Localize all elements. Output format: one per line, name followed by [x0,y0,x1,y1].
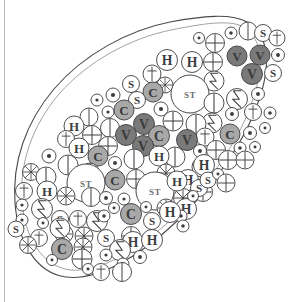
circled-dot-icon [134,251,147,264]
page-edge-rule [4,0,5,302]
letter-s-icon: S [123,76,140,93]
small-circled-dot-icon [188,191,199,202]
letter-v-filled-icon: V [250,45,270,65]
spoke-wheel-icon [57,187,75,205]
circled-dot-icon [109,157,122,170]
letter-v-filled-icon: V [242,64,263,85]
small-circled-dot-icon [38,218,49,229]
small-circled-dot-icon [118,193,130,205]
small-circled-dot-icon [102,106,114,118]
circled-vertical-line-icon [204,93,224,113]
svg-text:ST: ST [80,179,92,189]
circled-dot-icon [106,88,120,102]
lightning-bolt-icon [32,199,53,220]
circled-plus-icon [219,151,238,170]
dagger-cross-icon [93,264,110,281]
circled-dot-icon [252,88,265,101]
cell-layer: SVVHHVSSCSTSCVHVCCHVVCHHSTCHHSTHSSHSCSHC… [8,22,285,282]
small-circled-dot-icon [16,199,28,211]
spoke-wheel-icon [20,237,37,254]
letter-h-icon: H [157,50,178,71]
circled-plus-icon [217,174,235,192]
circled-plus-icon [206,34,225,53]
small-circled-dot-icon [109,203,120,214]
small-circled-dot-icon [100,249,112,261]
lightning-bolt-icon [227,89,248,110]
letter-h-icon: H [149,146,169,166]
small-circled-dot-icon [141,202,152,213]
circled-dot-icon [100,192,113,205]
small-circled-dot-icon [260,123,271,134]
circled-plus-icon [204,53,223,72]
circled-dot-icon [264,107,276,119]
circled-dot-icon [225,27,237,39]
letter-c-filled-icon: C [105,170,125,190]
letter-v-filled-icon: V [227,46,247,66]
small-circled-dot-icon [250,142,261,153]
dagger-cross-icon [245,104,262,121]
circled-dot-icon [42,149,56,163]
letter-c-filled-icon: C [143,82,163,102]
small-circled-dot-icon [47,255,58,266]
circled-plus-icon [236,151,254,169]
letter-h-icon: H [182,52,203,73]
letter-h-icon: H [160,202,181,223]
letter-s-icon: S [144,213,161,230]
letter-h-icon: H [69,138,89,158]
small-circled-dot-icon [194,33,205,44]
circled-dot-icon [244,127,257,140]
circled-dot-icon [226,108,239,121]
svg-text:ST: ST [184,90,196,100]
cell-population-diagram: SVVHHVSSCSTSCVHVCCHVVCHHSTCHHSTHSSHSCSHC… [0,0,291,302]
circled-vertical-line-icon [82,188,101,207]
lightning-bolt-icon [50,218,70,238]
letter-h-icon: H [142,230,163,251]
lightning-bolt-icon [110,240,131,261]
small-circled-dot-icon [83,264,94,275]
dagger-cross-icon [269,30,285,46]
letter-c-filled-icon: C [121,204,142,225]
dagger-cross-icon [16,183,33,200]
letter-h-icon: H [167,171,187,191]
dagger-cross-icon [70,211,87,228]
circled-vertical-line-icon [113,263,132,282]
letter-s-icon: S [265,65,282,82]
circled-dot-icon [98,210,110,222]
letter-c-filled-icon: C [220,124,240,144]
circled-vertical-line-icon [124,149,144,169]
circled-dot-icon [177,220,189,232]
small-circled-dot-icon [91,94,103,106]
letter-c-filled-icon: C [114,100,134,120]
circled-dot-icon [272,49,285,62]
stem-cell-icon: ST [171,75,209,113]
letter-s-icon: S [8,221,24,237]
letter-h-icon: H [37,181,57,201]
svg-text:ST: ST [149,187,161,197]
figure-root: SVVHHVSSCSTSCVHVCCHVVCHHSTCHHSTHSSHSCSHC… [0,0,291,302]
